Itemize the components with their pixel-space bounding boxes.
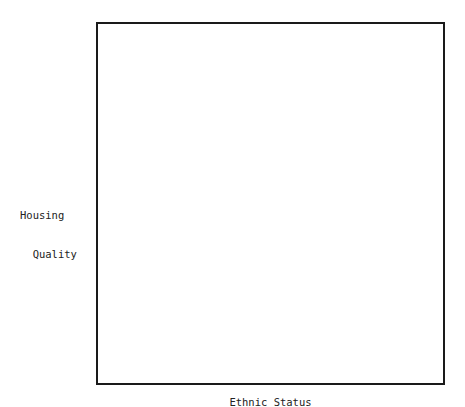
y-axis-label-line-1: Housing	[20, 209, 77, 222]
y-axis-label: Housing Quality	[20, 183, 77, 274]
plot-area	[96, 22, 445, 385]
y-axis-label-line-2: Quality	[20, 248, 77, 261]
x-axis-label: Ethnic Status	[0, 396, 465, 407]
